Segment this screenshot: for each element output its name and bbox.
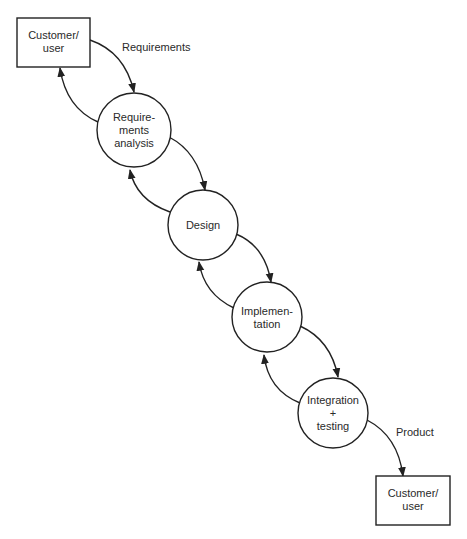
node-customer-top-line2: user — [43, 42, 65, 54]
node-customer-top: Customer/ user — [17, 18, 90, 67]
node-implementation-line1: Implemen- — [241, 305, 293, 317]
node-design-line1: Design — [186, 219, 220, 231]
edge-label-product: Product — [396, 426, 434, 438]
node-requirements-line1: Require- — [113, 111, 156, 123]
node-integration-line2: + — [330, 407, 336, 419]
node-requirements-line2: ments — [119, 124, 149, 136]
node-integration-line1: Integration — [307, 394, 359, 406]
edge-requirements-to-customer — [60, 68, 98, 122]
node-design: Design — [168, 190, 238, 260]
node-customer-top-line1: Customer/ — [28, 29, 80, 41]
waterfall-diagram: Requirements Product Customer/ user Requ… — [0, 0, 467, 539]
edge-design-to-implementation — [236, 234, 271, 282]
node-implementation-line2: tation — [254, 318, 281, 330]
node-requirements-analysis: Require- ments analysis — [97, 93, 171, 167]
edge-integration-to-implementation — [264, 355, 300, 403]
node-implementation: Implemen- tation — [232, 282, 302, 352]
node-customer-bottom-line1: Customer/ — [388, 487, 440, 499]
node-integration-testing: Integration + testing — [298, 378, 368, 448]
node-integration-line3: testing — [317, 420, 349, 432]
node-requirements-line3: analysis — [114, 137, 154, 149]
edge-implementation-to-design — [199, 262, 234, 308]
edge-requirements-to-design — [169, 137, 205, 190]
edge-label-requirements: Requirements — [122, 41, 191, 53]
edge-design-to-requirements — [130, 170, 170, 212]
node-customer-bottom-line2: user — [402, 500, 424, 512]
edge-implementation-to-integration — [300, 326, 338, 377]
node-customer-bottom: Customer/ user — [376, 476, 450, 525]
